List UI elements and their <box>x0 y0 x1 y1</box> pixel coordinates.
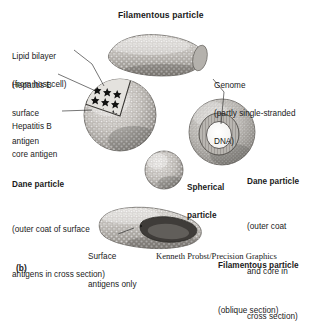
particle-label-spherical-line1: Spherical <box>187 183 224 192</box>
particle-label-spherical-line2: particle <box>187 211 224 220</box>
particle-label-dane-core-name: Dane particle <box>247 177 299 186</box>
filamentous-particle-top <box>100 28 215 84</box>
particle-label-dane-surface-name: Dane particle <box>12 180 105 189</box>
callout-surface-antigen-line1: Hepatitis B <box>12 81 52 90</box>
figure-title: Filamentous particle <box>118 11 204 21</box>
particle-label-dane-surface-note1: (outer coat of surface <box>12 225 105 234</box>
leader-core-antigen <box>62 110 92 111</box>
callout-genome-line1: Genome <box>214 81 295 90</box>
panel-label: (b) <box>16 264 27 273</box>
artwork-credit: Kenneth Probst/Precision Graphics <box>156 252 277 262</box>
particle-label-filamentous-oblique-note1: (oblique section) <box>218 306 299 315</box>
particle-label-filamentous-oblique: Filamentous particle (oblique section) <box>218 225 299 325</box>
callout-genome-line2: (partly single-stranded <box>214 109 295 118</box>
leader-lipid-bilayer <box>74 50 104 86</box>
callout-core-antigen-line1: Hepatitis B <box>12 122 57 131</box>
spherical-particle-art <box>144 150 184 190</box>
callout-surface-antigens-only: Surface antigens only <box>88 234 137 308</box>
particle-label-filamentous-oblique-name: Filamentous particle <box>218 261 299 270</box>
callout-surface-antigens-only-line1: Surface <box>88 252 137 261</box>
callout-surface-antigens-only-line2: antigens only <box>88 280 137 289</box>
callout-lipid-bilayer-line1: Lipid bilayer <box>12 52 66 61</box>
